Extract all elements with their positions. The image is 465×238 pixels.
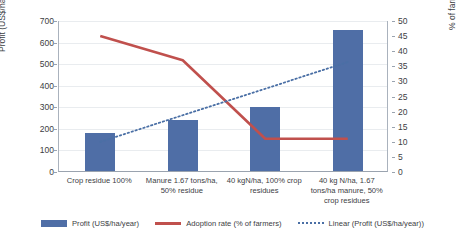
chart-container: Profit (US$/ha per year % of farming usi… — [0, 0, 465, 238]
bar-swatch-icon — [41, 220, 67, 227]
y-tick-left: 500 — [28, 60, 54, 68]
y-tick-right: 0 — [398, 168, 418, 176]
y-tick-mark-left — [54, 107, 57, 108]
y-tick-mark-right — [392, 36, 395, 37]
y-tick-right: 25 — [398, 93, 418, 101]
y-axis-left-ticks: 7006005004003002001000 — [26, 21, 54, 172]
y-axis-left-title: Profit (US$/ha per year — [0, 0, 7, 52]
x-axis-label: 40 kgN/ha, 100% crop residues — [225, 176, 304, 196]
y-tick-right: 10 — [398, 138, 418, 146]
y-tick-left: 100 — [28, 146, 54, 154]
y-tick-mark-left — [54, 43, 57, 44]
y-tick-mark-right — [392, 66, 395, 67]
y-axis-right-ticks: 50454035302520151050 — [392, 21, 416, 172]
legend-label: Linear (Profit (US$/ha/year)) — [329, 219, 424, 228]
y-tick-mark-right — [392, 127, 395, 128]
x-axis-category-labels: Crop residue 100%Manure 1.67 tons/ha, 50… — [58, 176, 388, 210]
y-tick-mark-right — [392, 172, 395, 173]
legend-item[interactable]: Linear (Profit (US$/ha/year)) — [298, 219, 424, 228]
y-tick-left: 400 — [28, 82, 54, 90]
legend-item[interactable]: Profit (US$/ha/year) — [41, 219, 139, 228]
y-tick-mark-left — [54, 129, 57, 130]
y-tick-left: 300 — [28, 103, 54, 111]
legend-label: Profit (US$/ha/year) — [72, 219, 139, 228]
y-tick-right: 30 — [398, 77, 418, 85]
legend-label: Adoption rate (% of farmers) — [186, 219, 281, 228]
plot-area — [58, 21, 388, 172]
y-tick-mark-right — [392, 51, 395, 52]
x-axis-label: Manure 1.67 tons/ha, 50% residue — [143, 176, 222, 196]
line-swatch-icon — [155, 222, 181, 225]
chart-legend: Profit (US$/ha/year)Adoption rate (% of … — [0, 214, 465, 232]
y-tick-right: 40 — [398, 47, 418, 55]
y-tick-mark-left — [54, 64, 57, 65]
adoption-rate-line — [100, 36, 348, 139]
trendline — [100, 62, 348, 142]
y-tick-right: 35 — [398, 62, 418, 70]
y-tick-mark-left — [54, 86, 57, 87]
dotted-line-swatch-icon — [298, 222, 324, 224]
y-tick-mark-right — [392, 112, 395, 113]
y-tick-mark-right — [392, 81, 395, 82]
y-axis-right-title: % of farming using — [447, 0, 457, 30]
y-tick-left: 600 — [28, 39, 54, 47]
y-tick-left: 200 — [28, 125, 54, 133]
line-series — [59, 21, 389, 172]
y-tick-mark-right — [392, 97, 395, 98]
y-tick-mark-left — [54, 150, 57, 151]
y-tick-mark-right — [392, 21, 395, 22]
y-tick-left: 700 — [28, 17, 54, 25]
x-axis-label: Crop residue 100% — [60, 176, 139, 186]
y-tick-right: 20 — [398, 108, 418, 116]
y-tick-right: 45 — [398, 32, 418, 40]
y-tick-mark-left — [54, 21, 57, 22]
y-tick-mark-right — [392, 157, 395, 158]
y-tick-right: 50 — [398, 17, 418, 25]
y-tick-right: 15 — [398, 123, 418, 131]
y-tick-left: 0 — [28, 168, 54, 176]
y-tick-mark-left — [54, 172, 57, 173]
y-tick-mark-right — [392, 142, 395, 143]
x-axis-label: 40 kg N/ha, 1.67 tons/ha manure, 50% cro… — [308, 176, 387, 206]
legend-item[interactable]: Adoption rate (% of farmers) — [155, 219, 281, 228]
y-tick-right: 5 — [398, 153, 418, 161]
